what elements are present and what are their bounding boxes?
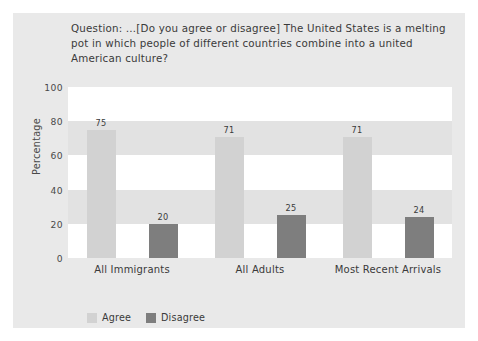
bar-disagree-all-adults — [277, 215, 306, 258]
legend-label: Agree — [102, 311, 131, 324]
background-band — [68, 190, 452, 224]
y-tick-label: 20 — [23, 218, 63, 229]
y-tick-label: 40 — [23, 184, 63, 195]
y-tick-label: 80 — [23, 116, 63, 127]
plot-area: 752071257124 — [68, 87, 452, 258]
y-tick-label: 60 — [23, 150, 63, 161]
bar-value-label: 75 — [79, 118, 124, 128]
chart-figure: Question: …[Do you agree or disagree] Th… — [0, 0, 478, 341]
bar-agree-most-recent-arrivals — [343, 137, 372, 258]
bar-disagree-most-recent-arrivals — [405, 217, 434, 258]
chart-panel: Question: …[Do you agree or disagree] Th… — [13, 13, 465, 328]
bar-value-label: 24 — [397, 205, 442, 215]
bar-value-label: 25 — [269, 203, 314, 213]
bar-value-label: 20 — [141, 212, 186, 222]
legend-label: Disagree — [161, 311, 205, 324]
background-band — [68, 121, 452, 155]
legend-swatch-icon — [87, 313, 97, 323]
legend-swatch-icon — [146, 313, 156, 323]
y-axis-ticks: 020406080100 — [21, 87, 63, 258]
x-tick-label: Most Recent Arrivals — [313, 264, 463, 275]
bar-disagree-all-immigrants — [149, 224, 178, 258]
bar-value-label: 71 — [207, 125, 252, 135]
y-tick-label: 100 — [23, 82, 63, 93]
bar-value-label: 71 — [335, 125, 380, 135]
bar-agree-all-adults — [215, 137, 244, 258]
chart-title: Question: …[Do you agree or disagree] Th… — [71, 21, 453, 66]
y-tick-label: 0 — [23, 253, 63, 264]
bar-agree-all-immigrants — [87, 130, 116, 258]
